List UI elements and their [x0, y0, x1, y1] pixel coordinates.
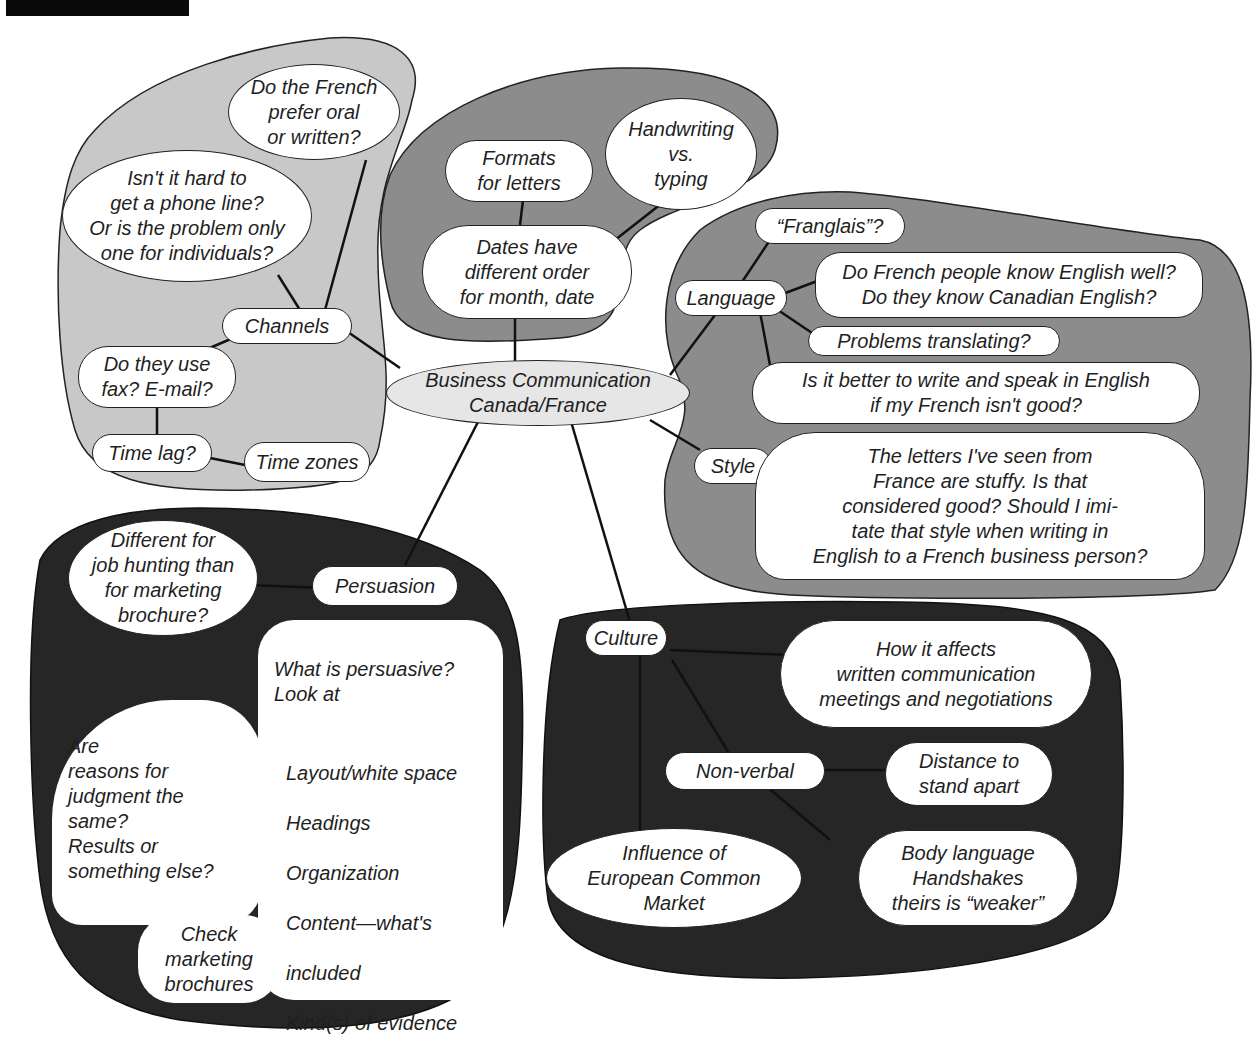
node-handwriting-vs-typing: Handwriting vs. typing — [605, 98, 757, 210]
node-problems-translating: Problems translating? — [808, 326, 1060, 356]
node-job-hunting: Different for job hunting than for marke… — [68, 520, 258, 636]
look-at-item: Organization — [286, 861, 503, 886]
node-language: Language — [675, 280, 787, 316]
node-culture: Culture — [585, 620, 667, 656]
node-franglais: “Franglais”? — [755, 208, 905, 244]
node-channels: Channels — [222, 308, 352, 344]
look-at-item: Headings — [286, 811, 503, 836]
node-business-communication: Business Communication Canada/France — [386, 360, 690, 426]
node-how-it-affects: How it affects written communication mee… — [780, 620, 1092, 728]
node-persuasion: Persuasion — [312, 566, 458, 606]
node-non-verbal: Non-verbal — [665, 752, 825, 790]
persuasive-heading: What is persuasive? Look at — [274, 657, 503, 707]
node-better-english: Is it better to write and speak in Engli… — [752, 362, 1200, 424]
node-reasons-judgment: Are reasons for judgment the same? Resul… — [52, 700, 262, 925]
look-at-item: Kind(s) of evidence — [286, 1011, 503, 1036]
look-at-item: Layout/white space — [286, 761, 503, 786]
node-check-brochures: Check marketing brochures — [138, 915, 280, 1003]
node-time-zones: Time zones — [244, 442, 370, 482]
node-fax-email: Do they use fax? E-mail? — [78, 346, 236, 408]
look-at-list: Layout/white space Headings Organization… — [274, 736, 503, 1045]
node-time-lag: Time lag? — [92, 434, 212, 472]
node-phone-line: Isn't it hard to get a phone line? Or is… — [62, 150, 312, 282]
node-formats-for-letters: Formats for letters — [445, 140, 593, 202]
node-what-is-persuasive: What is persuasive? Look at Layout/white… — [258, 620, 503, 1000]
node-distance: Distance to stand apart — [885, 742, 1053, 806]
look-at-item: Content—what's — [286, 911, 503, 936]
node-body-language: Body language Handshakes theirs is “weak… — [858, 830, 1078, 926]
node-european-market: Influence of European Common Market — [546, 828, 802, 928]
look-at-item: included — [286, 961, 503, 986]
node-letters-stuffy: The letters I've seen from France are st… — [755, 432, 1205, 580]
node-dates-order: Dates have different order for month, da… — [422, 225, 632, 319]
node-oral-or-written: Do the French prefer oral or written? — [228, 64, 400, 160]
node-know-english: Do French people know English well? Do t… — [815, 252, 1203, 318]
